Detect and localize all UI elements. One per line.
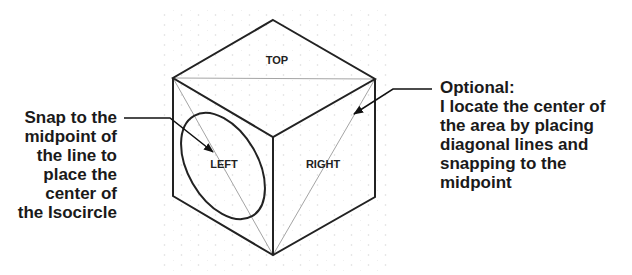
right-callout-line: midpoint (440, 173, 630, 192)
right-callout-line: I locate the center of (440, 97, 630, 116)
right-callout-line: snapping to the (440, 154, 630, 173)
left-callout-line: Snap to the (10, 108, 117, 127)
right-callout-line: diagonal lines and (440, 135, 630, 154)
left-callout-line: the line to (10, 146, 117, 165)
isometric-grid (160, 10, 390, 272)
left-callout-line: midpoint of (10, 127, 117, 146)
face-label-top: TOP (266, 54, 288, 66)
right-callout-text: Optional: I locate the center of the are… (440, 78, 630, 192)
left-callout-line: center of (10, 184, 117, 203)
left-callout-text: Snap to the midpoint of the line to plac… (10, 108, 117, 222)
face-label-right: RIGHT (306, 158, 341, 170)
face-label-left: LEFT (210, 158, 238, 170)
left-callout-line: place the (10, 165, 117, 184)
left-callout-line: the Isocircle (10, 203, 117, 222)
right-callout-line: Optional: (440, 78, 630, 97)
right-callout-line: the area by placing (440, 116, 630, 135)
